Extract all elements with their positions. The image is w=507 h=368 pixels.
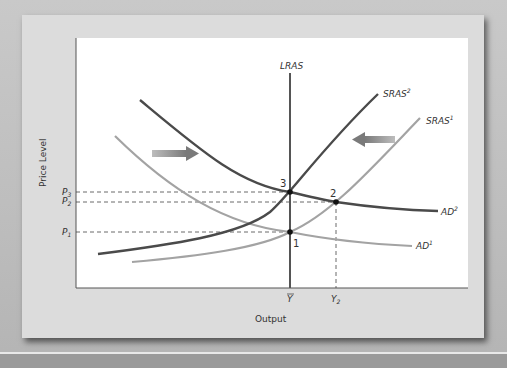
- p1-tick-label: P1: [62, 227, 71, 238]
- plot-area: [76, 38, 468, 288]
- sras2-label: SRAS2: [383, 87, 411, 99]
- lras-label: LRAS: [280, 61, 303, 71]
- point-2-label: 2: [330, 188, 336, 199]
- point-2: [333, 199, 339, 205]
- x-axis-title: Output: [255, 314, 287, 324]
- point-3-label: 3: [280, 178, 286, 189]
- point-1: [287, 229, 293, 235]
- ybar-tick-label: Y: [287, 294, 294, 304]
- y2-tick-label: Y2: [331, 294, 341, 305]
- sras1-label: SRAS1: [426, 114, 454, 126]
- point-3: [287, 189, 293, 195]
- point-1-label: 1: [293, 238, 299, 249]
- y-axis-title: Price Level: [38, 138, 48, 187]
